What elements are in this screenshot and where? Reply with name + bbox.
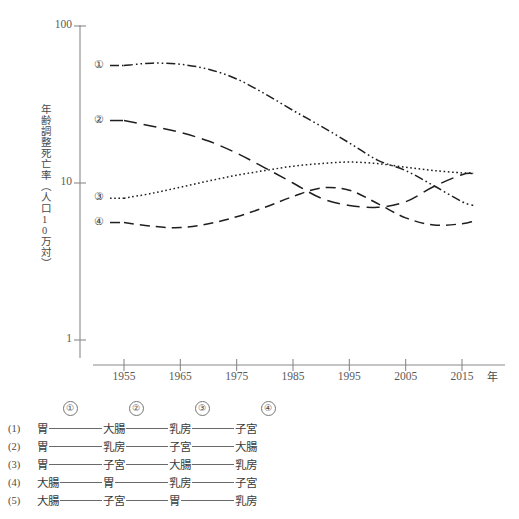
option-row[interactable]: (1)胃大腸乳房子宮 <box>8 419 301 437</box>
term-wrap: 子宮 <box>235 420 301 436</box>
term-text: 胃 <box>37 420 48 436</box>
series-line-1 <box>124 63 473 205</box>
term-wrap: 胃 <box>37 438 103 454</box>
term-text: 胃 <box>103 474 114 490</box>
option-row[interactable]: (5)大腸子宮胃乳房 <box>8 491 301 509</box>
term-wrap: 子宮 <box>103 492 169 508</box>
term-text: 子宮 <box>235 420 257 436</box>
x-tick-label-1995: 1995 <box>329 370 369 382</box>
term-text: 子宮 <box>235 474 257 490</box>
term-connector-rule <box>181 500 234 501</box>
option-number: (4) <box>8 473 37 491</box>
option-term: 子宮 <box>103 455 169 473</box>
term-wrap: 大腸 <box>169 456 235 472</box>
term-wrap: 子宮 <box>235 474 301 490</box>
option-number: (3) <box>8 455 37 473</box>
term-wrap: 大腸 <box>37 474 103 490</box>
x-tick-label-1975: 1975 <box>217 370 257 382</box>
term-connector-rule <box>49 464 102 465</box>
option-term: 胃 <box>169 491 235 509</box>
term-text: 乳房 <box>103 438 125 454</box>
x-tick-label-2015: 2015 <box>442 370 482 382</box>
term-text: 乳房 <box>169 420 191 436</box>
term-text: 子宮 <box>103 456 125 472</box>
series-tag-4: ④ <box>94 215 104 228</box>
term-connector-rule <box>192 482 234 483</box>
term-wrap: 子宮 <box>103 456 169 472</box>
term-text: 子宮 <box>169 438 191 454</box>
options-header-1: ① <box>37 400 103 419</box>
term-text: 乳房 <box>235 456 257 472</box>
term-connector-rule <box>60 482 102 483</box>
term-connector-rule <box>49 446 102 447</box>
series-line-4 <box>124 187 473 227</box>
term-connector-rule <box>126 428 168 429</box>
term-wrap: 胃 <box>169 492 235 508</box>
options-table: ①②③④ (1)胃大腸乳房子宮(2)胃乳房子宮大腸(3)胃子宮大腸乳房(4)大腸… <box>8 400 301 509</box>
options-header-2: ② <box>103 400 169 419</box>
option-row[interactable]: (2)胃乳房子宮大腸 <box>8 437 301 455</box>
options-body: (1)胃大腸乳房子宮(2)胃乳房子宮大腸(3)胃子宮大腸乳房(4)大腸胃乳房子宮… <box>8 419 301 509</box>
term-wrap: 胃 <box>37 420 103 436</box>
option-row[interactable]: (4)大腸胃乳房子宮 <box>8 473 301 491</box>
x-tick-label-1965: 1965 <box>160 370 200 382</box>
series-line-3 <box>124 162 473 198</box>
term-text: 乳房 <box>235 492 257 508</box>
term-wrap: 子宮 <box>169 438 235 454</box>
term-wrap: 乳房 <box>169 420 235 436</box>
term-text: 胃 <box>37 456 48 472</box>
term-wrap: 大腸 <box>37 492 103 508</box>
answer-options: ①②③④ (1)胃大腸乳房子宮(2)胃乳房子宮大腸(3)胃子宮大腸乳房(4)大腸… <box>8 400 308 509</box>
term-connector-rule <box>126 464 168 465</box>
option-term: 大腸 <box>169 455 235 473</box>
term-wrap: 乳房 <box>235 492 301 508</box>
option-term: 胃 <box>103 473 169 491</box>
y-tick-label-1: 1 <box>42 332 72 344</box>
x-tick-label-1955: 1955 <box>104 370 144 382</box>
term-wrap: 大腸 <box>103 420 169 436</box>
y-tick-label-10: 10 <box>42 175 72 187</box>
option-number: (5) <box>8 491 37 509</box>
option-term: 大腸 <box>103 419 169 437</box>
term-wrap: 胃 <box>37 456 103 472</box>
option-row[interactable]: (3)胃子宮大腸乳房 <box>8 455 301 473</box>
x-tick-label-1985: 1985 <box>273 370 313 382</box>
option-term: 子宮 <box>169 437 235 455</box>
term-connector-rule <box>60 500 102 501</box>
option-term: 乳房 <box>235 491 301 509</box>
term-connector-rule <box>49 428 102 429</box>
term-text: 大腸 <box>37 492 59 508</box>
term-wrap: 乳房 <box>103 438 169 454</box>
term-text: 子宮 <box>103 492 125 508</box>
term-text: 胃 <box>169 492 180 508</box>
x-tick-label-2005: 2005 <box>386 370 426 382</box>
term-connector-rule <box>126 500 168 501</box>
term-connector-rule <box>192 446 234 447</box>
term-wrap: 乳房 <box>169 474 235 490</box>
option-term: 乳房 <box>169 473 235 491</box>
option-term: 胃 <box>37 437 103 455</box>
options-header-3: ③ <box>169 400 235 419</box>
y-tick-label-100: 100 <box>42 18 72 30</box>
option-term: 乳房 <box>103 437 169 455</box>
term-text: 乳房 <box>169 474 191 490</box>
term-text: 大腸 <box>169 456 191 472</box>
option-term: 乳房 <box>169 419 235 437</box>
series-tag-1: ① <box>94 58 104 71</box>
series-tag-3: ③ <box>94 190 104 203</box>
series-tag-2: ② <box>94 113 104 126</box>
option-term: 子宮 <box>235 419 301 437</box>
term-wrap: 胃 <box>103 474 169 490</box>
option-term: 胃 <box>37 455 103 473</box>
term-connector-rule <box>115 482 168 483</box>
circled-number-4: ④ <box>261 401 276 416</box>
figure-root: 年齢調整死亡率（人口10万対） 110100 19551965197519851… <box>0 0 519 519</box>
options-header-blank <box>8 400 37 419</box>
term-text: 胃 <box>37 438 48 454</box>
option-term: 子宮 <box>103 491 169 509</box>
circled-number-3: ③ <box>195 401 210 416</box>
term-connector-rule <box>192 428 234 429</box>
option-number: (1) <box>8 419 37 437</box>
option-number: (2) <box>8 437 37 455</box>
option-term: 乳房 <box>235 455 301 473</box>
